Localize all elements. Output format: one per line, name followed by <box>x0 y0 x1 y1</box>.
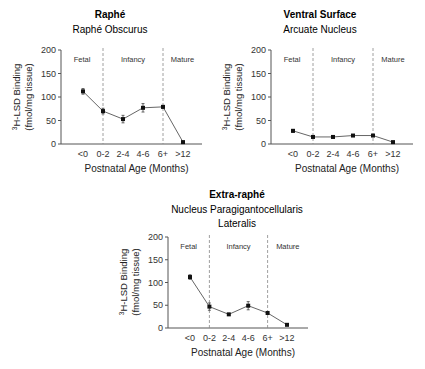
x-tick-label: <0 <box>288 149 298 159</box>
data-point <box>351 134 355 138</box>
data-point <box>181 140 185 144</box>
data-point <box>161 105 165 109</box>
y-axis-label: 3H-LSD Binding <box>11 64 22 130</box>
y-axis-label-units: (fmol/mg tissue) <box>23 63 34 131</box>
y-axis-label-units: (fmol/mg tissue) <box>130 248 141 316</box>
data-point <box>227 312 231 316</box>
data-point <box>81 89 85 93</box>
data-point <box>291 129 295 133</box>
data-point <box>311 135 315 139</box>
x-tick-label: <0 <box>185 333 195 343</box>
x-axis-label: Postnatal Age (Months) <box>295 163 399 174</box>
x-tick-label: 6+ <box>368 149 378 159</box>
data-point <box>285 323 289 327</box>
x-axis-label: Postnatal Age (Months) <box>85 163 189 174</box>
x-tick-label: 0-2 <box>96 149 109 159</box>
chart-title: Raphé <box>95 9 126 20</box>
x-tick-label: 0-2 <box>306 149 319 159</box>
y-tick-label: 0 <box>158 323 163 333</box>
extra-raphe-chart: Extra-raphéNucleus Paragigantocellularis… <box>118 189 308 358</box>
y-tick-label: 0 <box>51 139 56 149</box>
x-tick-label: 0-2 <box>203 333 216 343</box>
data-line <box>83 91 183 142</box>
data-point <box>371 134 375 138</box>
data-line <box>190 277 287 325</box>
x-tick-label: 2-4 <box>222 333 235 343</box>
data-point <box>266 311 270 315</box>
region-label-infancy: Infancy <box>331 55 355 64</box>
figure: RaphéRaphé Obscurus050100150200<00-22-44… <box>0 0 425 369</box>
chart-subtitle: Arcuate Nucleus <box>283 24 356 35</box>
data-line <box>293 131 393 142</box>
x-tick-label: 2-4 <box>326 149 339 159</box>
y-tick-label: 200 <box>41 45 56 55</box>
y-tick-label: 50 <box>153 300 163 310</box>
region-label-mature: Mature <box>381 55 404 64</box>
data-point <box>141 106 145 110</box>
chart-subtitle: Nucleus Paragigantocellularis <box>171 204 303 215</box>
x-tick-label: >12 <box>175 149 190 159</box>
data-point <box>331 135 335 139</box>
x-tick-label: 6+ <box>262 333 272 343</box>
region-label-mature: Mature <box>171 55 194 64</box>
y-tick-label: 100 <box>41 92 56 102</box>
ventral-surface-chart: Ventral SurfaceArcuate Nucleus0501001502… <box>221 9 413 174</box>
x-tick-label: 4-6 <box>136 149 149 159</box>
x-tick-label: >12 <box>279 333 294 343</box>
region-label-mature: Mature <box>276 242 299 251</box>
x-tick-label: >12 <box>385 149 400 159</box>
data-point <box>207 305 211 309</box>
y-tick-label: 50 <box>256 116 266 126</box>
data-point <box>391 140 395 144</box>
chart-subtitle-line2: Lateralis <box>218 218 256 229</box>
data-point <box>101 109 105 113</box>
x-tick-label: 2-4 <box>116 149 129 159</box>
raphe-chart: RaphéRaphé Obscurus050100150200<00-22-44… <box>11 9 202 174</box>
region-label-fetal: Fetal <box>180 242 197 251</box>
region-label-fetal: Fetal <box>284 55 301 64</box>
x-tick-label: 4-6 <box>242 333 255 343</box>
y-tick-label: 200 <box>148 232 163 242</box>
y-tick-label: 50 <box>46 116 56 126</box>
region-label-infancy: Infancy <box>226 242 250 251</box>
data-point <box>188 275 192 279</box>
y-axis-label: 3H-LSD Binding <box>118 249 129 315</box>
y-axis-label-units: (fmol/mg tissue) <box>233 63 244 131</box>
chart-title: Ventral Surface <box>284 9 357 20</box>
y-tick-label: 150 <box>148 255 163 265</box>
chart-subtitle: Raphé Obscurus <box>72 24 147 35</box>
region-label-fetal: Fetal <box>74 55 91 64</box>
y-tick-label: 150 <box>251 69 266 79</box>
y-tick-label: 200 <box>251 45 266 55</box>
y-tick-label: 0 <box>261 139 266 149</box>
y-tick-label: 100 <box>251 92 266 102</box>
x-tick-label: 6+ <box>158 149 168 159</box>
x-tick-label: <0 <box>78 149 88 159</box>
data-point <box>121 117 125 121</box>
y-tick-label: 100 <box>148 278 163 288</box>
y-axis-label: 3H-LSD Binding <box>221 64 232 130</box>
region-label-infancy: Infancy <box>121 55 145 64</box>
x-tick-label: 4-6 <box>346 149 359 159</box>
x-axis-label: Postnatal Age (Months) <box>191 347 295 358</box>
chart-title: Extra-raphé <box>209 189 265 200</box>
y-tick-label: 150 <box>41 69 56 79</box>
data-point <box>246 304 250 308</box>
